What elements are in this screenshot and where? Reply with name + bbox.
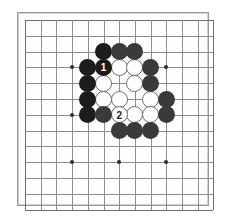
stone-white[interactable] bbox=[126, 106, 143, 123]
stone-white[interactable] bbox=[95, 91, 112, 108]
stone-white[interactable] bbox=[142, 106, 159, 123]
stone-white[interactable] bbox=[142, 91, 159, 108]
stone-black[interactable] bbox=[79, 75, 96, 92]
stone-black[interactable] bbox=[142, 75, 159, 92]
stone-black[interactable] bbox=[79, 106, 96, 123]
stone-white[interactable] bbox=[111, 59, 128, 76]
go-diagram-root: 12 bbox=[0, 0, 227, 223]
stone-black[interactable] bbox=[158, 91, 175, 108]
stone-white[interactable] bbox=[95, 75, 112, 92]
board-stone-layer: 12 bbox=[0, 0, 227, 223]
stone-white[interactable] bbox=[111, 91, 128, 108]
stone-black[interactable] bbox=[142, 59, 159, 76]
move-number-label: 1 bbox=[95, 63, 112, 73]
stone-black-move-1[interactable]: 1 bbox=[95, 59, 112, 76]
stone-black[interactable] bbox=[111, 122, 128, 139]
stone-black[interactable] bbox=[95, 43, 112, 60]
stone-black[interactable] bbox=[79, 59, 96, 76]
stone-black[interactable] bbox=[79, 91, 96, 108]
stone-white-move-2[interactable]: 2 bbox=[111, 106, 128, 123]
stone-black[interactable] bbox=[95, 106, 112, 123]
stone-black[interactable] bbox=[126, 43, 143, 60]
stone-black[interactable] bbox=[158, 106, 175, 123]
stone-black[interactable] bbox=[111, 43, 128, 60]
stone-black[interactable] bbox=[142, 122, 159, 139]
stone-black[interactable] bbox=[126, 122, 143, 139]
stone-white[interactable] bbox=[126, 59, 143, 76]
move-number-label: 2 bbox=[112, 111, 127, 121]
stone-white[interactable] bbox=[126, 75, 143, 92]
